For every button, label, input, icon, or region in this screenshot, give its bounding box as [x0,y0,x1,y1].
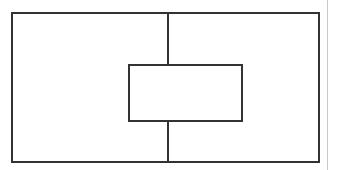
page-edge-line [327,0,328,170]
diagram-canvas [0,0,337,170]
inner-rectangle [128,64,243,122]
